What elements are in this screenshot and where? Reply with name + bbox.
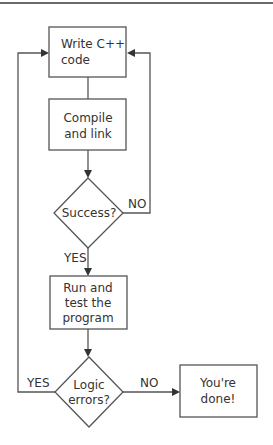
arrow-head-icon (84, 349, 92, 357)
node-label: done! (201, 392, 236, 406)
node-label: Logic (73, 378, 104, 392)
edge-label-success-no: NO (128, 197, 146, 211)
flowchart: Write C++ code Compile and link Success?… (0, 0, 273, 445)
node-label: program (62, 311, 113, 325)
arrow-head-icon (127, 49, 135, 57)
node-label: Write C++ (61, 37, 125, 51)
node-label: Run and (63, 281, 112, 295)
arrow-head-icon (172, 388, 180, 396)
node-label: Success? (62, 206, 117, 220)
node-logic: Logic errors? (55, 357, 123, 427)
arrow-head-icon (84, 170, 92, 178)
node-compile: Compile and link (49, 99, 126, 150)
node-success: Success? (54, 178, 123, 248)
edge-label-logic-no: NO (140, 376, 158, 390)
arrow-head-icon (41, 49, 49, 57)
node-label: and link (64, 127, 112, 141)
node-label: code (61, 53, 90, 67)
node-label: errors? (68, 393, 110, 407)
edge-label-logic-yes: YES (26, 376, 50, 390)
edge-success-no (123, 53, 150, 213)
node-run: Run and test the program (50, 276, 127, 329)
node-done: You're done! (180, 365, 257, 417)
edge-label-success-yes: YES (63, 251, 87, 265)
node-label: You're (199, 376, 236, 390)
arrow-head-icon (84, 268, 92, 276)
node-write: Write C++ code (49, 27, 126, 77)
node-label: Compile (63, 111, 112, 125)
node-label: test the (65, 296, 112, 310)
